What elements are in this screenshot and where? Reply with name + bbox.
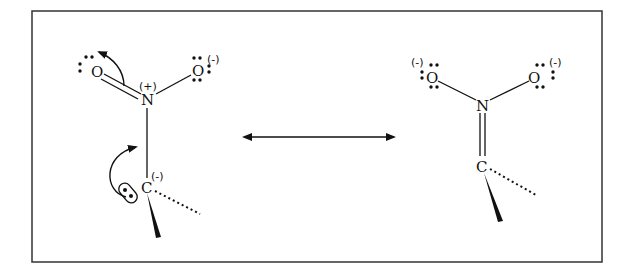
left-structure: O N (+) O (-) C (-) — [78, 52, 219, 238]
resonance-diagram: O N (+) O (-) C (-) — [0, 0, 633, 275]
charge-n-plus: (+) — [139, 80, 157, 93]
charge-o-left-minus: (-) — [411, 56, 424, 69]
right-structure: O (-) N O (-) C — [411, 56, 562, 222]
atom-o-left: O — [426, 69, 438, 87]
atom-o-double: O — [91, 63, 103, 81]
carbanion-lone-pair — [116, 181, 139, 206]
charge-o-minus: (-) — [207, 53, 220, 66]
charge-c-minus: (-) — [151, 170, 164, 183]
atom-o-right: O — [528, 69, 540, 87]
atom-c: C — [476, 158, 487, 176]
atom-o-single: O — [192, 62, 204, 80]
atom-n: N — [476, 97, 489, 115]
atom-n: N — [141, 91, 154, 109]
charge-o-right-minus: (-) — [549, 56, 562, 69]
